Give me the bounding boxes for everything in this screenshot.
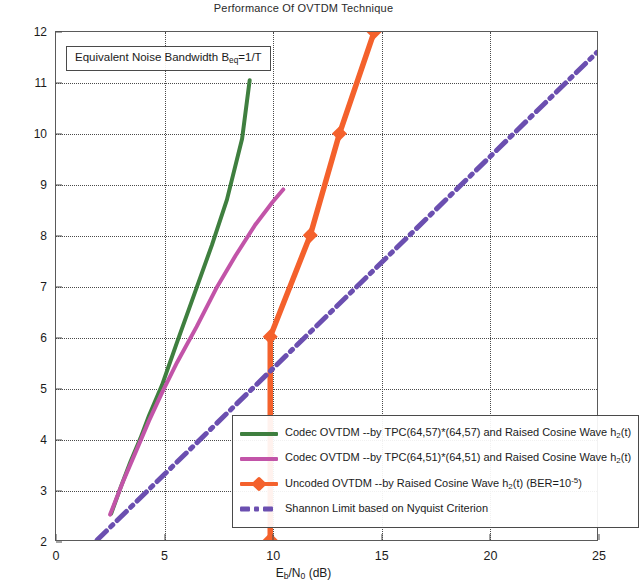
x-tick-label: 20: [483, 540, 497, 563]
x-tick-label: 5: [161, 540, 168, 563]
x-axis-label-unit: (dB): [305, 566, 331, 580]
y-tick-label: 11: [35, 76, 56, 90]
y-tick-mark: [56, 389, 62, 390]
y-tick-mark: [56, 236, 62, 237]
y-tick-label: 8: [40, 229, 56, 243]
x-tick-label: 10: [266, 540, 280, 563]
legend-swatch-dash-dot: [240, 502, 278, 516]
legend-item[interactable]: Codec OVTDM --by TPC(64,51)*(64,51) and …: [240, 446, 631, 471]
legend-item-label: Codec OVTDM --by TPC(64,57)*(64,57) and …: [285, 427, 631, 440]
y-tick-mark: [56, 134, 62, 135]
y-tick-label: 6: [40, 331, 56, 345]
legend-swatch-line-diamond: [240, 477, 278, 491]
x-axis-label-mid: /N: [289, 566, 301, 580]
legend-item[interactable]: Codec OVTDM --by TPC(64,57)*(64,57) and …: [240, 421, 631, 446]
legend-text-b: (t): [621, 451, 631, 463]
legend-text-a: Codec OVTDM --by TPC(64,51)*(64,51) and …: [285, 451, 616, 463]
y-tick-label: 5: [40, 382, 56, 396]
y-tick-label: 7: [40, 280, 56, 294]
x-tick-mark: [273, 534, 274, 540]
series-marker-diamond: [332, 126, 347, 141]
legend-text-c: ): [578, 476, 582, 488]
y-tick-label: 9: [40, 178, 56, 192]
y-tick-label: 12: [34, 25, 56, 39]
x-tick-label: 15: [375, 540, 389, 563]
x-axis-label: Eb/N0 (dB): [0, 566, 607, 581]
legend-swatch-line: [240, 452, 278, 466]
x-axis-label-e: E: [276, 566, 284, 580]
chart-title: Performance Of OVTDM Technique: [0, 2, 607, 14]
legend-item[interactable]: Shannon Limit based on Nyquist Criterion: [240, 496, 631, 521]
legend-item-label: Shannon Limit based on Nyquist Criterion: [285, 503, 488, 514]
y-tick-mark: [56, 32, 62, 33]
x-tick-mark: [490, 534, 491, 540]
series-marker-diamond: [263, 533, 278, 540]
x-tick-mark: [56, 534, 57, 540]
annotation-subscript: eq: [229, 56, 238, 65]
y-tick-mark: [56, 440, 62, 441]
series-line: [111, 80, 249, 513]
x-tick-mark: [164, 534, 165, 540]
y-tick-mark: [56, 83, 62, 84]
series-marker-diamond: [263, 329, 278, 344]
y-tick-label: 3: [40, 484, 56, 498]
annotation-suffix: =1/T: [238, 51, 261, 63]
y-tick-mark: [56, 491, 62, 492]
legend-text-b: (t) (BER=10: [513, 476, 571, 488]
legend-text-a: Codec OVTDM --by TPC(64,57)*(64,57) and …: [285, 426, 616, 438]
legend-item[interactable]: Uncoded OVTDM --by Raised Cosine Wave h2…: [240, 471, 631, 496]
x-tick-mark: [381, 534, 382, 540]
legend-text-a: Shannon Limit based on Nyquist Criterion: [285, 502, 488, 514]
y-tick-mark: [56, 338, 62, 339]
y-tick-mark: [56, 287, 62, 288]
plot-area: 23456789101112 0510152025 Equivalent Noi…: [55, 31, 598, 541]
annotation-box: Equivalent Noise Bandwidth Beq=1/T: [66, 46, 271, 71]
x-tick-label: 0: [53, 540, 60, 563]
legend-item-label: Codec OVTDM --by TPC(64,51)*(64,51) and …: [285, 452, 631, 465]
y-tick-label: 4: [40, 433, 56, 447]
legend-swatch-line: [240, 427, 278, 441]
series-marker-diamond: [367, 32, 382, 39]
legend-text-b: (t): [621, 426, 631, 438]
x-tick-mark: [599, 534, 600, 540]
series-marker-diamond: [303, 228, 318, 243]
x-tick-label: 25: [592, 540, 606, 563]
annotation-prefix: Equivalent Noise Bandwidth B: [75, 51, 229, 63]
legend-text-a: Uncoded OVTDM --by Raised Cosine Wave h: [285, 476, 508, 488]
y-tick-label: 10: [34, 127, 56, 141]
legend: Codec OVTDM --by TPC(64,57)*(64,57) and …: [232, 415, 639, 528]
legend-item-label: Uncoded OVTDM --by Raised Cosine Wave h2…: [285, 477, 582, 491]
y-tick-mark: [56, 185, 62, 186]
